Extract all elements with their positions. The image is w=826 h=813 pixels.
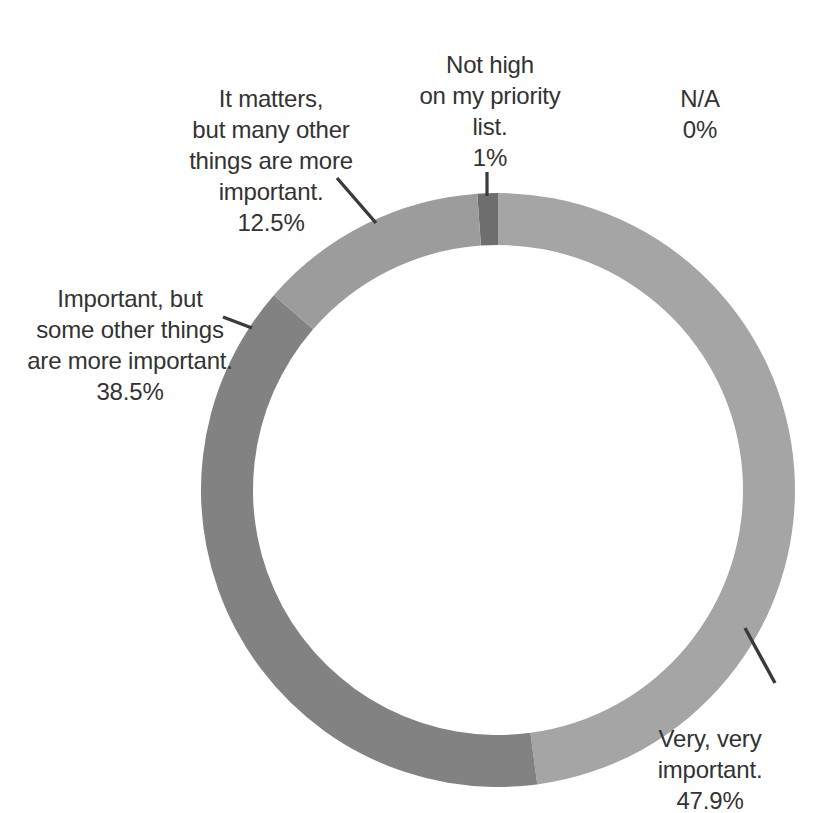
slice-label-it-matters-text: It matters, but many other things are mo… (189, 85, 353, 205)
slice-label-na-percent: 0% (620, 114, 780, 145)
slice-label-it-matters: It matters, but many other things are mo… (160, 52, 382, 269)
slice-label-important-some-other: Important, but some other things are mor… (6, 252, 254, 438)
slice-label-na-text: N/A (680, 85, 719, 112)
slice-label-very-very-important: Very, very important. 47.9% (600, 692, 820, 813)
slice-label-na: N/A 0% (620, 52, 780, 176)
slice-label-not-high-priority-text: Not high on my priority list. (419, 51, 560, 140)
slice-label-important-some-other-percent: 38.5% (6, 376, 254, 407)
slice-label-very-very-important-percent: 47.9% (600, 785, 820, 813)
slice-label-important-some-other-text: Important, but some other things are mor… (27, 285, 233, 374)
slice-label-not-high-priority: Not high on my priority list. 1% (395, 18, 585, 204)
slice-label-very-very-important-text: Very, very important. (658, 725, 763, 783)
leader-line-very-very (745, 628, 775, 683)
slice-label-it-matters-percent: 12.5% (160, 207, 382, 238)
slice-label-not-high-priority-percent: 1% (395, 142, 585, 173)
